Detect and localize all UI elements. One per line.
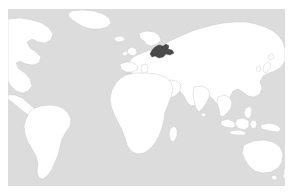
locator-map-figure: World locator map bbox=[0, 0, 293, 196]
world-map bbox=[8, 9, 285, 186]
map-canvas bbox=[8, 9, 285, 186]
